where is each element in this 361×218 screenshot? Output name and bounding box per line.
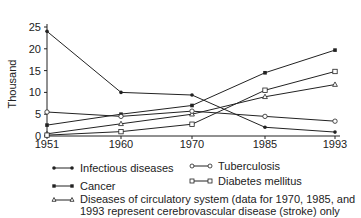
legend-label-diabetes: Diabetes mellitus (218, 175, 302, 187)
legend-marker-circulatory (50, 193, 80, 205)
x-tick-label: 1993 (323, 138, 347, 150)
legend-marker-cancer (50, 180, 80, 192)
axes: 051015202519511960197019851993 (29, 21, 347, 150)
data-point (263, 88, 267, 92)
data-point (119, 129, 123, 133)
y-tick-label: 20 (29, 43, 41, 55)
data-point (263, 125, 267, 129)
line-chart: 051015202519511960197019851993 Thousand … (0, 0, 361, 218)
x-tick-label: 1960 (109, 138, 133, 150)
legend-marker-tuberculosis (188, 160, 218, 172)
data-point (45, 133, 49, 137)
series-group (45, 30, 338, 138)
y-tick-label: 5 (35, 108, 41, 120)
data-point (333, 48, 337, 52)
x-tick-label: 1985 (253, 138, 277, 150)
data-point (263, 71, 267, 75)
y-axis-label: Thousand (6, 60, 18, 109)
data-point (45, 30, 49, 34)
legend-label-circulatory: Diseases of circulatory system (data for… (80, 193, 355, 217)
data-point (190, 122, 194, 126)
y-tick-label: 25 (29, 21, 41, 33)
data-point (333, 119, 337, 123)
data-point (190, 109, 194, 113)
data-point (333, 130, 337, 134)
data-point (119, 114, 123, 118)
data-point (190, 93, 194, 97)
legend-marker-infectious (50, 162, 80, 174)
data-point (263, 114, 267, 118)
data-point (333, 82, 338, 86)
legend-label-tuberculosis: Tuberculosis (218, 160, 280, 172)
y-tick-label: 15 (29, 65, 41, 77)
legend-label-cancer: Cancer (80, 180, 115, 192)
legend-label-infectious: Infectious diseases (80, 162, 174, 174)
x-tick-label: 1951 (35, 138, 59, 150)
data-point (119, 91, 123, 95)
y-tick-label: 10 (29, 86, 41, 98)
data-point (190, 104, 194, 108)
legend-label-circulatory-line1: Diseases of circulatory system (data for… (80, 193, 355, 205)
series-line (45, 69, 337, 137)
x-tick-label: 1970 (180, 138, 204, 150)
legend-marker-diabetes (188, 175, 218, 187)
legend-label-circulatory-line2: 1993 represent cerebrovascular disease (… (80, 205, 355, 217)
data-point (45, 123, 49, 127)
data-point (45, 110, 49, 114)
data-point (333, 69, 337, 73)
